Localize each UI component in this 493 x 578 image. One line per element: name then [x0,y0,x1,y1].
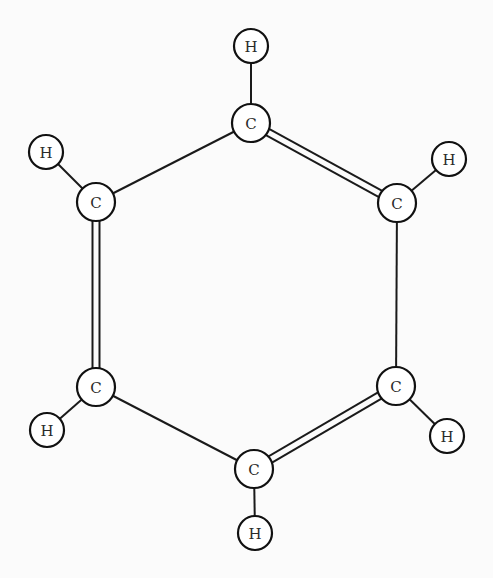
atoms-layer: CCCCCCHHHHHH [29,29,466,550]
atom-label: H [440,428,453,446]
carbon-atom-C5: C [77,368,115,406]
hydrogen-atom-H4: H [238,516,272,550]
double-bond-C5-C6 [93,202,100,387]
hydrogen-atom-H2: H [432,142,466,176]
atom-label: C [90,379,101,397]
carbon-atom-C1: C [232,104,270,142]
double-bond-C3-C4 [252,383,398,472]
atom-label: H [39,144,52,162]
carbon-atom-C2: C [378,184,416,222]
atom-label: C [248,461,259,479]
single-bond-C6-C1 [96,123,251,202]
carbon-atom-C4: C [235,450,273,488]
hydrogen-atom-H3: H [430,419,464,453]
single-bond-C4-C5 [96,387,254,469]
double-bond-C1-C2 [249,120,398,206]
hydrogen-atom-H5: H [30,413,64,447]
carbon-atom-C6: C [77,183,115,221]
atom-label: H [40,422,53,440]
single-bond-C2-C3 [396,203,397,386]
atom-label: C [90,194,101,212]
hydrogen-atom-H6: H [29,135,63,169]
atom-label: C [390,378,401,396]
carbon-atom-C3: C [377,367,415,405]
hydrogen-atom-H1: H [234,29,268,63]
atom-label: C [245,115,256,133]
atom-label: H [244,38,257,56]
atom-label: C [391,195,402,213]
benzene-diagram: CCCCCCHHHHHH [0,0,493,578]
atom-label: H [248,525,261,543]
atom-label: H [442,151,455,169]
molecule-structure: CCCCCCHHHHHH [0,0,493,578]
